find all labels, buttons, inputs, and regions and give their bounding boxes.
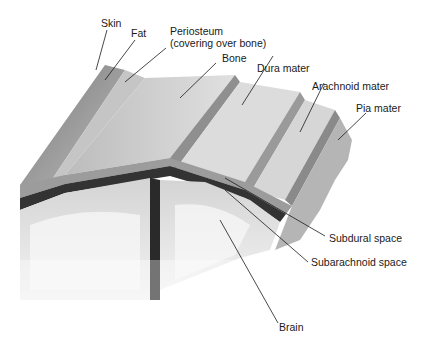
label-subarachnoid-space: Subarachnoid space: [311, 256, 407, 268]
meninges-illustration: [0, 0, 422, 354]
label-periosteum: Periosteum (covering over bone): [170, 25, 266, 49]
label-subdural-space: Subdural space: [329, 232, 402, 244]
label-pia-mater: Pia mater: [356, 102, 401, 114]
label-skin: Skin: [101, 17, 121, 29]
label-periosteum-line1: Periosteum: [170, 25, 266, 37]
label-fat: Fat: [131, 27, 146, 39]
label-periosteum-line2: (covering over bone): [170, 37, 266, 49]
label-brain: Brain: [279, 321, 304, 333]
label-dura-mater: Dura mater: [257, 62, 310, 74]
label-bone: Bone: [222, 52, 247, 64]
label-arachnoid-mater: Arachnoid mater: [312, 80, 389, 92]
